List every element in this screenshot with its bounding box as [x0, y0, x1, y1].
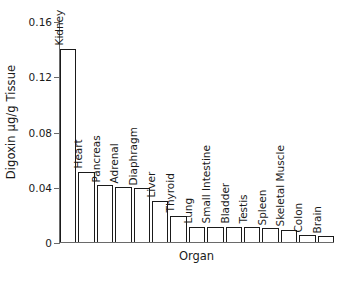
bar-chart-figure: Digoxin µg/g Tissue 00.040.080.120.16 Ki… [0, 0, 347, 283]
bar-label: Colon [293, 202, 304, 232]
y-axis-tick-label: 0 [45, 237, 52, 249]
bar-label: Liver [146, 172, 157, 198]
bar-rect[interactable]: Spleen [262, 228, 278, 242]
bar-label: Adrenal [109, 144, 120, 184]
y-axis-tick-label: 0.08 [29, 127, 52, 139]
x-axis-title: Organ [59, 249, 334, 263]
y-axis-tick-label: 0.12 [29, 71, 52, 83]
bar-group[interactable]: Pancreas [97, 21, 113, 242]
bar-group[interactable]: Diaphragm [134, 21, 150, 242]
y-axis-tick-mark [54, 22, 59, 23]
y-axis-tick-mark [54, 243, 59, 244]
bar-rect[interactable]: Testis [244, 227, 260, 242]
bar-label: Heart [72, 139, 83, 168]
bar-rect[interactable]: Bladder [226, 227, 242, 242]
y-axis-tick-label: 0.04 [29, 182, 52, 194]
bar-rect[interactable]: Adrenal [115, 187, 131, 242]
y-axis-tick-labels: 00.040.080.120.16 [20, 0, 56, 283]
bar-rect[interactable]: Colon [299, 235, 315, 242]
y-axis-title-text: Digoxin µg/g Tissue [4, 64, 18, 179]
bar-label: Kidney [54, 10, 65, 46]
bar-label: Brain [311, 206, 322, 234]
bar-rect[interactable]: Lung [189, 227, 205, 242]
bar-label: Thyroid [164, 173, 175, 212]
bar-group[interactable]: Kidney [60, 21, 76, 242]
bar-label: Spleen [256, 189, 267, 225]
bar-group[interactable]: Brain [318, 21, 334, 242]
y-axis-tick-label: 0.16 [29, 16, 52, 28]
bar-group[interactable]: Heart [78, 21, 94, 242]
bar-label: Small Intestine [201, 145, 212, 223]
y-axis-title: Digoxin µg/g Tissue [0, 0, 22, 243]
bar-label: Lung [183, 198, 194, 224]
bar-rect[interactable]: Pancreas [97, 185, 113, 242]
y-axis-tick-mark [54, 188, 59, 189]
bar-label: Testis [238, 195, 249, 224]
bar-label: Pancreas [91, 135, 102, 182]
bar-rect[interactable]: Small Intestine [207, 227, 223, 242]
bar-label: Skeletal Muscle [275, 145, 286, 226]
plot-area: KidneyHeartPancreasAdrenalDiaphragmLiver… [59, 22, 334, 243]
y-axis-tick-mark [54, 77, 59, 78]
bar-label: Diaphragm [127, 127, 138, 185]
bar-label: Bladder [219, 183, 230, 224]
y-axis-tick-mark [54, 133, 59, 134]
bar-rect[interactable]: Brain [318, 236, 334, 242]
x-axis-line [59, 242, 334, 243]
bar-series: KidneyHeartPancreasAdrenalDiaphragmLiver… [60, 21, 334, 242]
